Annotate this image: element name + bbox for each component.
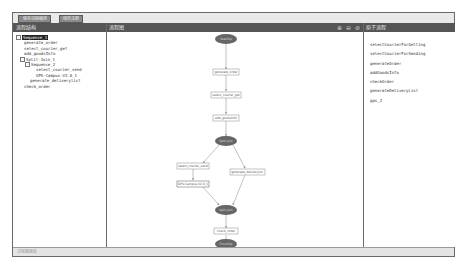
- atomic-panel-title: 原子流程: [363, 24, 386, 30]
- structure-panel: -Sequence_1 generate_order select_courie…: [13, 32, 106, 247]
- task-node-select-courier-send[interactable]: select_courier_send: [177, 163, 209, 169]
- svg-text:generate_deliverylist: generate_deliverylist: [231, 170, 263, 174]
- svg-text:StartOp: StartOp: [220, 37, 232, 41]
- app-window: 保存流程编排 组件注册 流程结构 流程图 ⊕⊖⊘ 原子流程 -Sequence_…: [12, 12, 455, 257]
- flowchart[interactable]: StartOp generate_order select_courier_ge…: [107, 32, 363, 249]
- atomic-item[interactable]: generateOrder: [370, 59, 425, 68]
- svg-text:Split-Join: Split-Join: [219, 208, 232, 212]
- status-text: 流程图面板: [13, 249, 37, 254]
- zoom-controls: ⊕⊖⊘: [334, 23, 361, 32]
- atomic-panel-header: 原子流程: [363, 23, 455, 32]
- status-bar: 流程图面板: [13, 247, 454, 256]
- task-node-generate-deliverylist[interactable]: generate_deliverylist: [230, 169, 265, 175]
- task-node-select-courier-get[interactable]: select_courier_get: [211, 92, 241, 98]
- atomic-item[interactable]: gps_2: [370, 96, 425, 105]
- register-component-button[interactable]: 组件注册: [59, 15, 83, 23]
- atomic-item[interactable]: generateDeliveryList: [370, 86, 425, 95]
- svg-text:select_courier_send: select_courier_send: [178, 164, 208, 168]
- split-node[interactable]: Split-Join: [215, 136, 237, 146]
- start-node[interactable]: StartOp: [215, 34, 237, 44]
- structure-panel-title: 流程结构: [13, 24, 36, 30]
- flowchart-canvas[interactable]: StartOp generate_order select_courier_ge…: [107, 32, 363, 247]
- svg-text:FinishOp: FinishOp: [220, 242, 233, 246]
- atomic-item[interactable]: selectCourierForGetting: [370, 40, 425, 49]
- task-node-gps-campus[interactable]: GPS-Campus-V2.0_1: [177, 181, 209, 187]
- svg-text:generate_order: generate_order: [214, 70, 238, 74]
- svg-text:Split-Join: Split-Join: [219, 139, 232, 143]
- zoom-in-icon[interactable]: ⊕: [334, 24, 343, 31]
- flowchart-panel-title: 流程图: [106, 24, 124, 30]
- tree-node[interactable]: check_order: [16, 84, 82, 89]
- atomic-item[interactable]: checkOrder: [370, 77, 425, 86]
- task-node-generate-order[interactable]: generate_order: [213, 69, 239, 75]
- svg-text:add_goodsInfo: add_goodsInfo: [215, 116, 237, 120]
- zoom-out-icon[interactable]: ⊖: [343, 24, 352, 31]
- atomic-panel: selectCourierForGetting selectCourierFor…: [364, 32, 455, 247]
- task-node-check-order[interactable]: check_order: [214, 228, 238, 234]
- atomic-item[interactable]: addGoodsInfo: [370, 68, 425, 77]
- process-tree: -Sequence_1 generate_order select_courie…: [16, 35, 82, 89]
- structure-panel-header: 流程结构: [13, 23, 106, 32]
- svg-text:check_order: check_order: [217, 229, 236, 233]
- svg-text:GPS-Campus-V2.0_1: GPS-Campus-V2.0_1: [178, 182, 209, 186]
- join-node[interactable]: Split-Join: [215, 205, 237, 215]
- task-node-add-goodsinfo[interactable]: add_goodsInfo: [213, 115, 239, 121]
- atomic-item[interactable]: selectCourierForSending: [370, 49, 425, 58]
- save-orchestration-button[interactable]: 保存流程编排: [18, 15, 51, 23]
- svg-text:select_courier_get: select_courier_get: [212, 93, 240, 97]
- zoom-reset-icon[interactable]: ⊘: [352, 24, 361, 31]
- atomic-process-list: selectCourierForGetting selectCourierFor…: [370, 40, 425, 105]
- flowchart-panel-header: 流程图 ⊕⊖⊘: [106, 23, 363, 32]
